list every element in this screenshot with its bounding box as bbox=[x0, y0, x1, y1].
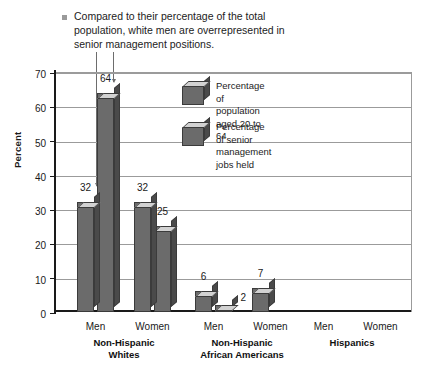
bar-value-label: 2 bbox=[350, 292, 356, 303]
bar-value-label: 32 bbox=[80, 182, 91, 193]
y-axis-tick: 10 bbox=[35, 270, 55, 288]
y-axis-tick: 20 bbox=[35, 235, 55, 253]
bar-front-face bbox=[134, 202, 151, 312]
legend-label: Percentage of senior management jobs hel… bbox=[216, 121, 271, 171]
bar-value-label: 8 bbox=[311, 265, 317, 276]
bar-front-face bbox=[362, 285, 379, 312]
bar-front-face bbox=[77, 202, 94, 312]
y-axis-tick: 0 bbox=[40, 304, 55, 322]
x-axis-sub-label: Men bbox=[314, 321, 333, 332]
bar-side-face bbox=[289, 299, 295, 307]
bar-top-face bbox=[305, 285, 329, 291]
bar: 32 bbox=[134, 202, 151, 312]
x-axis-sub-label: Men bbox=[204, 321, 223, 332]
bar-value-label: 6 bbox=[201, 271, 207, 282]
y-tick-label: 40 bbox=[35, 172, 46, 183]
bar-front-face bbox=[305, 285, 322, 312]
y-axis-line bbox=[54, 70, 56, 314]
bar-value-label: 64 bbox=[100, 73, 111, 84]
y-tick-label: 60 bbox=[35, 103, 46, 114]
y-axis-tick: 70 bbox=[35, 64, 55, 82]
x-axis-sub-label: Women bbox=[363, 321, 397, 332]
y-tick-label: 70 bbox=[35, 69, 46, 80]
bar-side-face bbox=[94, 192, 100, 307]
bar-value-label: 7 bbox=[258, 268, 264, 279]
chart-caption: Compared to their percentage of the tota… bbox=[62, 9, 312, 52]
bar: 8 bbox=[305, 285, 322, 312]
x-axis-group-label: Non-Hispanic African Americans bbox=[200, 337, 284, 361]
legend-swatch-cube-icon bbox=[182, 86, 204, 105]
bar: 2 bbox=[215, 305, 232, 312]
bar-side-face bbox=[399, 299, 405, 307]
x-axis-sub-label: Women bbox=[135, 321, 169, 332]
bar: 7 bbox=[252, 288, 269, 312]
bar-side-face bbox=[342, 295, 348, 307]
bar-side-face bbox=[151, 192, 157, 307]
y-axis-tick: 30 bbox=[35, 201, 55, 219]
y-tick-label: 50 bbox=[35, 138, 46, 149]
y-tick-label: 20 bbox=[35, 240, 46, 251]
bar-value-label: 1 bbox=[297, 296, 303, 307]
bar: 8 bbox=[362, 285, 379, 312]
y-axis-tick: 50 bbox=[35, 133, 55, 151]
legend-swatch-cube-icon bbox=[182, 127, 204, 146]
bar: 32 bbox=[77, 202, 94, 312]
y-tick-label: 0 bbox=[40, 309, 46, 320]
bar-side-face bbox=[114, 83, 120, 307]
bar: 6 bbox=[195, 291, 212, 312]
bar-value-label: 8 bbox=[368, 265, 374, 276]
bar-value-label: 25 bbox=[157, 206, 168, 217]
bar-value-label: 2 bbox=[240, 292, 246, 303]
bar-value-label: 32 bbox=[137, 182, 148, 193]
y-tick-label: 10 bbox=[35, 275, 46, 286]
y-tick-label: 30 bbox=[35, 206, 46, 217]
bullet-icon bbox=[62, 15, 67, 20]
y-axis-tick: 60 bbox=[35, 98, 55, 116]
y-axis-tick: 40 bbox=[35, 167, 55, 185]
caption-text: Compared to their percentage of the tota… bbox=[74, 9, 312, 52]
x-axis-sub-label: Men bbox=[86, 321, 105, 332]
x-axis-group-label: Non-Hispanic Whites bbox=[93, 337, 154, 361]
bar-value-label: 1 bbox=[407, 296, 413, 307]
y-axis-title: Percent bbox=[12, 132, 23, 168]
x-axis-group-label: Hispanics bbox=[330, 337, 375, 349]
bar-top-face bbox=[362, 285, 386, 291]
x-axis-sub-label: Women bbox=[253, 321, 287, 332]
